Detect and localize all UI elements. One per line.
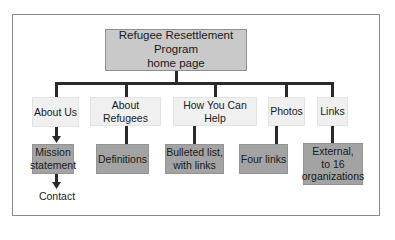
node-links-label: Links — [320, 105, 345, 118]
external-line1: External, — [312, 145, 353, 158]
bulleted-line1: Bulleted list, — [166, 146, 223, 159]
node-about-refugees-label: About Refugees — [91, 99, 160, 124]
node-mission-statement: Mission statement — [32, 144, 74, 174]
external-line2: to 16 — [321, 158, 344, 171]
node-about-us: About Us — [32, 97, 79, 127]
bulleted-line2: with links — [173, 159, 216, 172]
node-how-you-can-help-label: How You Can Help — [174, 99, 256, 124]
node-contact: Contact — [36, 190, 78, 202]
definitions-label: Definitions — [98, 153, 147, 166]
node-how-you-can-help: How You Can Help — [173, 97, 257, 126]
node-about-refugees: About Refugees — [90, 97, 161, 126]
home-page-title: Refugee Resettlement Program — [106, 29, 246, 57]
four-links-label: Four links — [241, 153, 287, 166]
node-about-us-label: About Us — [34, 106, 77, 119]
mission-line1: Mission — [35, 146, 71, 159]
arrow-down-icon — [52, 174, 61, 189]
home-page-node: Refugee Resettlement Program home page — [105, 29, 247, 71]
arrow-down-icon — [52, 127, 61, 143]
external-line3: organizations — [302, 170, 364, 183]
node-photos-label: Photos — [270, 105, 303, 118]
node-external-links: External, to 16 organizations — [303, 143, 363, 185]
node-definitions: Definitions — [96, 144, 149, 174]
node-four-links: Four links — [239, 144, 288, 174]
node-bulleted-list: Bulleted list, with links — [165, 144, 224, 174]
node-links: Links — [317, 97, 348, 126]
mission-line2: statement — [30, 159, 76, 172]
node-photos: Photos — [268, 97, 305, 126]
home-page-subtitle: home page — [147, 57, 205, 71]
